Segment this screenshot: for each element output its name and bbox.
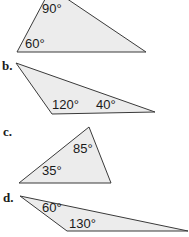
- triangle-d: d. 60° 130°: [3, 190, 188, 231]
- triangle-c: c. 85° 35°: [3, 124, 111, 183]
- triangle-c-shape: [19, 127, 111, 183]
- triangle-figure: 90° 60° b. 120° 40° c. 85° 35° d. 60° 13…: [0, 0, 189, 237]
- triangle-a: 90° 60°: [17, 0, 146, 52]
- triangle-b-label: b.: [2, 58, 12, 73]
- triangle-d-angle-top: 60°: [42, 200, 62, 215]
- triangle-c-label: c.: [3, 124, 12, 139]
- triangle-b-angle-right: 40°: [96, 97, 116, 112]
- triangle-c-angle-left: 35°: [42, 163, 62, 178]
- triangle-d-label: d.: [3, 190, 13, 205]
- triangle-b: b. 120° 40°: [2, 58, 155, 114]
- triangle-a-angle-top: 90°: [42, 1, 62, 16]
- triangle-b-shape: [16, 63, 155, 114]
- triangle-a-angle-left: 60°: [25, 36, 45, 51]
- triangle-c-angle-top: 85°: [73, 141, 93, 156]
- triangle-d-angle-bottom: 130°: [69, 216, 96, 231]
- triangle-b-angle-left: 120°: [52, 97, 79, 112]
